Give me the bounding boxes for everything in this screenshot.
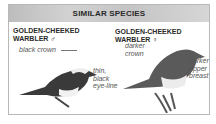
bird-illustration-male — [15, 49, 105, 109]
annotation-line: breast — [189, 72, 209, 80]
annotation-line: darker — [189, 57, 209, 65]
annotation-eye-line: thin, black eye-line — [93, 67, 118, 90]
similar-species-panel: SIMILAR SPECIES GOLDEN-CHEEKED WARBLER ♂… — [8, 4, 210, 115]
annotation-line: upper — [189, 65, 209, 73]
section-title: SIMILAR SPECIES — [73, 9, 146, 18]
annotation-darker-breast: darker upper breast — [189, 57, 209, 80]
annotation-line: eye-line — [93, 82, 118, 90]
species-name-line1: GOLDEN-CHEEKED — [13, 27, 80, 35]
species-title-male: GOLDEN-CHEEKED WARBLER ♂ — [13, 27, 80, 43]
section-header: SIMILAR SPECIES — [9, 5, 209, 22]
annotation-line: black — [93, 75, 118, 83]
annotation-line: thin, — [93, 67, 118, 75]
species-name-line2: WARBLER ♂ — [13, 35, 80, 43]
